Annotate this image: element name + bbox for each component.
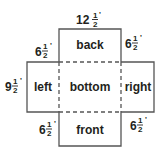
face-label-bottom: bottom [70,80,111,94]
dim-whole: 6 [39,123,46,137]
dimension-top-width: 12 1 2 ' [76,10,101,29]
dim-numerator: 1 [13,77,18,86]
dim-unit: ' [54,119,56,128]
dimension-left-height: 9 1 2 ' [5,76,22,95]
dimension-back-right: 6 1 2 ' [125,33,142,52]
dim-unit: ' [140,33,142,42]
dim-numerator: 1 [133,34,138,43]
dim-unit: ' [50,41,52,50]
dim-whole: 9 [5,80,12,94]
dim-unit: ' [145,115,147,124]
dim-whole: 12 [76,13,90,27]
dim-whole: 6 [130,119,137,133]
dim-whole: 6 [125,37,132,51]
dim-denominator: 2 [138,125,143,134]
face-label-back: back [76,38,104,52]
dim-denominator: 2 [13,86,18,95]
dim-numerator: 1 [138,116,143,125]
dim-numerator: 1 [93,11,98,20]
dimension-back-left: 6 1 2 ' [35,41,52,60]
dim-numerator: 1 [43,42,48,51]
dim-denominator: 2 [93,20,98,29]
dim-unit: ' [99,10,101,19]
face-label-left: left [34,80,52,94]
face-label-front: front [76,123,103,137]
dim-denominator: 2 [47,129,52,138]
dim-unit: ' [20,76,22,85]
face-label-right: right [125,80,152,94]
dim-numerator: 1 [47,120,52,129]
dim-denominator: 2 [43,51,48,60]
box-net-diagram: back left bottom right front 12 1 2 ' 6 … [0,0,158,154]
dimension-front-right: 6 1 2 ' [130,115,147,134]
dim-denominator: 2 [133,43,138,52]
dimension-front-left: 6 1 2 ' [39,119,56,138]
dim-whole: 6 [35,45,42,59]
